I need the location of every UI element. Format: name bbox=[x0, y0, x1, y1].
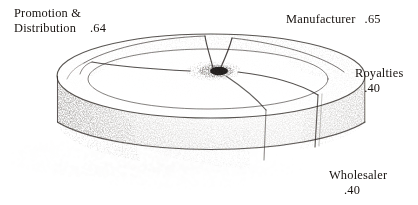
slice-value-wholesaler: .40 bbox=[329, 183, 387, 198]
slice-label-wholesaler-text: Wholesaler bbox=[329, 168, 387, 182]
slice-value-promotion: .64 bbox=[90, 21, 106, 35]
slice-label-manufacturer: Manufacturer.65 bbox=[286, 12, 381, 27]
slice-label-promotion-line2: Distribution.64 bbox=[14, 21, 106, 36]
slice-label-wholesaler: Wholesaler .40 bbox=[329, 168, 387, 197]
slice-value-manufacturer: .65 bbox=[365, 12, 381, 26]
slice-label-manufacturer-text: Manufacturer bbox=[286, 12, 356, 26]
slice-label-promotion-line1: Promotion & bbox=[14, 6, 81, 20]
slice-label-royalties-text: Royalties bbox=[355, 66, 403, 80]
slice-label-promotion-text: Distribution bbox=[14, 21, 76, 35]
slice-label-royalties: Royalties .40 bbox=[355, 66, 403, 95]
slice-value-royalties: .40 bbox=[355, 81, 403, 96]
slice-label-promotion-distribution: Promotion & Distribution.64 bbox=[14, 6, 106, 35]
